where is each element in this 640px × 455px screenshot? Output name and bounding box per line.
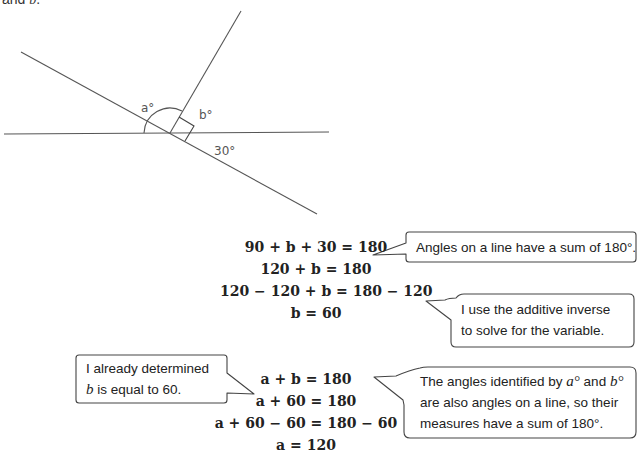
var-a-deg: a° [566, 373, 580, 389]
var-b: b [86, 381, 94, 397]
var-b-deg: b° [610, 373, 624, 389]
callout-angles-identified: The angles identified by a° and b° are a… [420, 371, 623, 434]
equation-b-3: 120 − 120 + b = 180 − 120 [220, 280, 420, 302]
label-b: b° [199, 108, 213, 122]
line1-prefix: The angles identified by [420, 374, 566, 389]
equation-b-4: b = 60 [236, 302, 396, 324]
callout-additive-inverse-line2: to solve for the variable. [461, 320, 610, 341]
callout-additive-inverse: I use the additive inverse to solve for … [461, 299, 610, 341]
angle-diagram: a° b° 30° [0, 0, 340, 225]
callout-angles-identified-line3: measures have a sum of 180°. [420, 413, 623, 434]
callout-already-determined: I already determined b is equal to 60. [86, 358, 209, 400]
equation-a-2: a + 60 = 180 [226, 390, 386, 412]
callout-angles-on-line-text: Angles on a line have a sum of 180°. [416, 240, 636, 255]
equation-a-4: a = 120 [226, 434, 386, 455]
label-30: 30° [214, 144, 235, 158]
label-a: a° [141, 101, 154, 115]
callout-already-determined-rest: is equal to 60. [94, 382, 182, 397]
callout-additive-inverse-line1: I use the additive inverse [461, 299, 610, 320]
equation-b-2: 120 + b = 180 [236, 258, 396, 280]
right-angle-marker [179, 117, 194, 141]
equation-a-1: a + b = 180 [226, 368, 386, 390]
line1-mid: and [580, 374, 610, 389]
equation-b-1: 90 + b + 30 = 180 [236, 236, 396, 258]
horizontal-line [4, 132, 329, 134]
callout-already-determined-line2: b is equal to 60. [86, 379, 209, 400]
callout-angles-on-line: Angles on a line have a sum of 180°. [416, 237, 636, 258]
callout-angles-identified-line2: are also angles on a line, so their [420, 392, 623, 413]
diagonal-line [21, 52, 317, 214]
callout-angles-identified-line1: The angles identified by a° and b° [420, 371, 623, 392]
callout-already-determined-line1: I already determined [86, 358, 209, 379]
equation-a-3: a + 60 − 60 = 180 − 60 [206, 412, 406, 434]
